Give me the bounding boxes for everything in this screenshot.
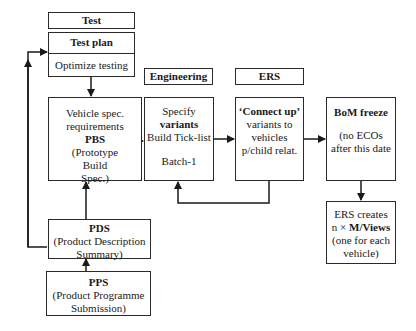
test-plan-box: Test plan Optimize testing — [48, 32, 135, 77]
pps-sub-1: (Product Programme — [47, 289, 150, 302]
pds-box: PDS (Product Description Summary) — [48, 219, 151, 259]
pbs-title: PBS — [49, 133, 141, 146]
mviews-prefix: n × — [332, 221, 346, 233]
mviews-line-1: ERS creates — [327, 208, 395, 221]
pps-title: PPS — [47, 276, 150, 289]
bom-line-2: after this date — [327, 142, 395, 155]
ers-connect-up: ‘Connect up’ — [236, 105, 303, 118]
pds-sub-2: Summary) — [49, 248, 150, 261]
pps-box: PPS (Product Programme Submission) — [46, 271, 151, 316]
test-plan-body: Optimize testing — [49, 54, 134, 76]
engineering-batch: Batch-1 — [145, 155, 213, 168]
engineering-variants: variants — [145, 118, 213, 131]
arrow-pds-loop-to-testplan — [28, 52, 47, 247]
test-header: Test — [48, 12, 135, 29]
ers-header-label: ERS — [259, 70, 280, 82]
engineering-box: Specify variants Build Tick-list Batch-1 — [144, 97, 214, 181]
engineering-line-1: Specify — [145, 105, 213, 118]
ers-line-2: vehicles — [236, 131, 303, 144]
mviews-box: ERS creates n × M/Views (one for each ve… — [326, 201, 396, 264]
pbs-sub-1: (Prototype — [49, 146, 141, 159]
bom-freeze-box: BoM freeze (no ECOs after this date — [326, 97, 396, 181]
pbs-sub-2: Build — [49, 159, 141, 172]
ers-box: ‘Connect up’ variants to vehicles p/chil… — [235, 97, 304, 181]
test-plan-title: Test plan — [49, 33, 134, 54]
mviews-line-4: vehicle) — [327, 247, 395, 260]
ers-line-1: variants to — [236, 118, 303, 131]
pbs-box: Vehicle spec. requirements PBS (Prototyp… — [48, 97, 142, 181]
ers-header: ERS — [235, 68, 304, 85]
engineering-header-label: Engineering — [150, 70, 207, 82]
pds-title: PDS — [49, 222, 150, 235]
arrow-ers-loop-to-engineering — [178, 180, 269, 203]
pbs-sub-3: Spec.) — [49, 172, 141, 185]
mviews-bold: M/Views — [349, 221, 390, 233]
bom-line-1: (no ECOs — [327, 129, 395, 142]
engineering-line-3: Build Tick-list — [145, 131, 213, 144]
pps-sub-2: Submission) — [47, 302, 150, 315]
mviews-line-2: n × M/Views — [327, 221, 395, 234]
pbs-line-2: requirements — [49, 120, 141, 133]
engineering-header: Engineering — [144, 68, 213, 85]
pbs-line-1: Vehicle spec. — [49, 107, 141, 120]
bom-title: BoM freeze — [327, 106, 395, 119]
pds-sub-1: (Product Description — [49, 235, 150, 248]
test-header-label: Test — [82, 14, 101, 26]
mviews-line-3: (one for each — [327, 234, 395, 247]
ers-line-3: p/child relat. — [236, 144, 303, 157]
